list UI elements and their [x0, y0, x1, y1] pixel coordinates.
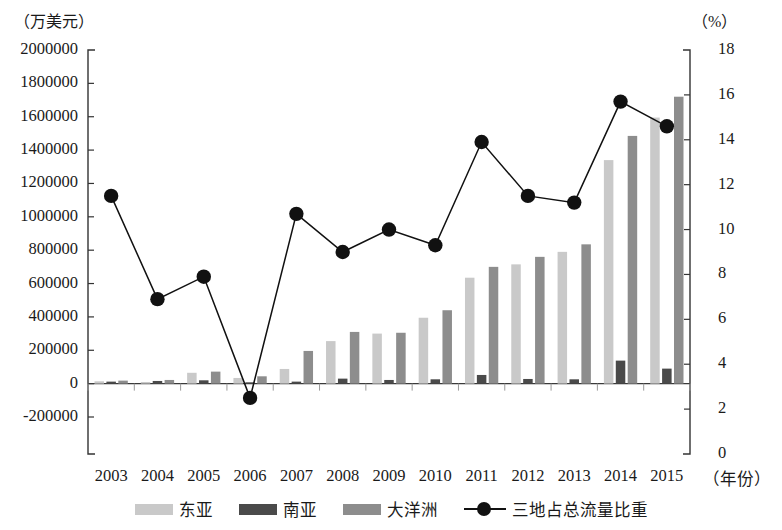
bar: [535, 257, 545, 384]
trend-line-point: [660, 119, 674, 133]
bar: [292, 382, 302, 384]
bar: [199, 380, 209, 383]
bar: [489, 267, 499, 384]
bar: [384, 380, 394, 384]
bar-series-3: [118, 97, 683, 384]
legend-swatch-icon: [135, 504, 173, 515]
trend-line-point: [104, 189, 118, 203]
legend-label: 三地占总流量比重: [512, 497, 648, 521]
bar: [187, 373, 197, 384]
trend-line-point: [382, 222, 396, 236]
legend-item[interactable]: 东亚: [135, 497, 213, 521]
legend-item[interactable]: 大洋洲: [343, 497, 438, 521]
legend-line-marker-icon: [464, 503, 506, 515]
bar: [662, 369, 672, 384]
legend-item[interactable]: 南亚: [239, 497, 317, 521]
trend-line-point: [613, 94, 627, 108]
bar: [95, 381, 105, 383]
y2-axis-line: [683, 50, 690, 454]
bar: [280, 369, 290, 384]
bar: [674, 97, 684, 384]
legend-swatch-icon: [343, 504, 381, 515]
bar-series-1: [95, 118, 660, 384]
chart-container: （万美元） （%） 200000018000001600000140000012…: [0, 0, 782, 530]
trend-line-point: [197, 269, 211, 283]
bar: [604, 160, 614, 384]
legend-label: 南亚: [283, 497, 317, 521]
bar: [338, 379, 348, 384]
bar: [165, 380, 175, 384]
bar: [569, 379, 579, 383]
trend-line-point: [243, 391, 257, 405]
bar: [304, 351, 314, 384]
legend-label: 东亚: [179, 497, 213, 521]
bar: [326, 341, 336, 384]
bar: [558, 252, 568, 384]
bar: [350, 332, 360, 384]
trend-line-point: [335, 245, 349, 259]
bar: [465, 278, 475, 384]
legend-item[interactable]: 三地占总流量比重: [464, 497, 648, 521]
bar: [628, 136, 638, 384]
bar: [477, 375, 487, 384]
bar: [396, 333, 406, 384]
bar: [431, 379, 441, 383]
trend-line-point: [289, 207, 303, 221]
trend-line-point: [521, 189, 535, 203]
bar: [442, 310, 452, 383]
trend-line-point: [150, 292, 164, 306]
bar: [257, 376, 267, 383]
trend-line-point: [474, 135, 488, 149]
bar: [106, 382, 116, 384]
bar: [211, 372, 221, 384]
legend-swatch-icon: [239, 504, 277, 515]
y-axis-line: [88, 50, 95, 454]
bar: [650, 118, 660, 384]
bar: [511, 264, 521, 383]
trend-line-point: [428, 238, 442, 252]
bar: [153, 381, 163, 384]
bar: [118, 381, 128, 384]
bar: [141, 382, 151, 384]
plot-area: [0, 0, 782, 530]
bar: [616, 361, 626, 384]
legend-label: 大洋洲: [387, 497, 438, 521]
chart-legend: 东亚南亚大洋洲三地占总流量比重: [0, 497, 782, 521]
bar: [523, 379, 533, 384]
trend-line-point: [567, 195, 581, 209]
bar: [581, 244, 591, 383]
bar: [419, 318, 429, 384]
bar: [233, 378, 243, 384]
bar: [372, 334, 382, 384]
